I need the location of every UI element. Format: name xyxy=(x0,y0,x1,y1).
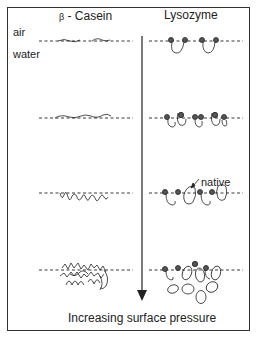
lysozyme-stage-1 xyxy=(169,38,219,54)
casein-chain-2 xyxy=(55,114,111,118)
interface-lines xyxy=(39,41,243,270)
lysozyme-stage-3 xyxy=(163,179,227,205)
native-globule xyxy=(184,186,196,204)
native-globule xyxy=(217,185,227,201)
casein-tangle-4 xyxy=(60,263,108,290)
casein-chain-3 xyxy=(60,192,108,200)
pressure-arrow-icon xyxy=(137,36,147,301)
lysozyme-stage-2 xyxy=(165,112,227,127)
lysozyme-stage-4 xyxy=(163,261,223,303)
diagram-artwork xyxy=(0,0,257,339)
